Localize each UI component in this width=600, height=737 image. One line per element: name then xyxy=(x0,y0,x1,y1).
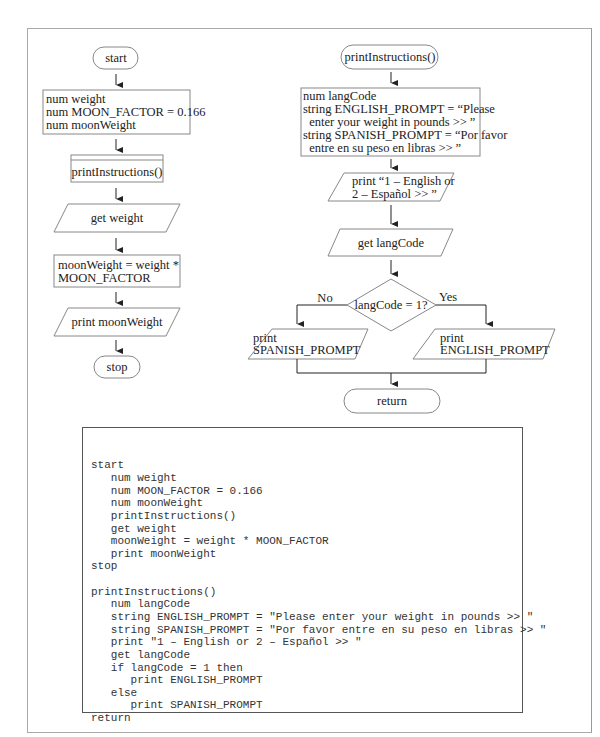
code-line: stop xyxy=(91,560,514,573)
return-label: return xyxy=(377,394,408,408)
code-line: num langCode xyxy=(91,598,514,611)
code-line: moonWeight = weight * MOON_FACTOR xyxy=(91,535,514,548)
code-line: get langCode xyxy=(91,649,514,662)
yes-label: Yes xyxy=(439,290,457,304)
decl-line-2: num MOON_FACTOR = 0.166 xyxy=(46,105,205,119)
code-line: printInstructions() xyxy=(91,510,514,523)
sub-start-label: printInstructions() xyxy=(345,50,436,64)
code-line: if langCode = 1 then xyxy=(91,662,514,675)
code-line: num moonWeight xyxy=(91,497,514,510)
code-line: print "1 – English or 2 – Español >> " xyxy=(91,636,514,649)
calc-line-1: moonWeight = weight * xyxy=(58,258,179,272)
pseudocode-box: start num weight num MOON_FACTOR = 0.166… xyxy=(82,427,523,713)
sub-decl-3: enter your weight in pounds >> ” xyxy=(303,115,475,129)
input-label: get weight xyxy=(91,211,144,225)
code-line: return xyxy=(91,712,514,725)
code-line: num MOON_FACTOR = 0.166 xyxy=(91,485,514,498)
code-line: start xyxy=(91,459,514,472)
decision-label: langCode = 1? xyxy=(354,298,427,312)
input-langcode-label: get langCode xyxy=(358,236,425,250)
stop-label: stop xyxy=(107,360,128,374)
code-line: else xyxy=(91,687,514,700)
decl-line-1: num weight xyxy=(46,92,106,106)
sub-decl-2: string ENGLISH_PROMPT = “Please xyxy=(303,102,495,116)
sub-decl-1: num langCode xyxy=(303,89,377,103)
menu-line-1: print “1 – English or xyxy=(352,174,456,188)
call-label: printInstructions() xyxy=(72,165,163,179)
menu-line-2: 2 – Español >> ” xyxy=(352,187,437,201)
output-label: print moonWeight xyxy=(72,315,164,329)
code-line: num weight xyxy=(91,472,514,485)
start-label: start xyxy=(105,51,127,65)
code-line: string SPANISH_PROMPT = "Por favor entre… xyxy=(91,624,514,637)
code-line: print moonWeight xyxy=(91,548,514,561)
code-line xyxy=(91,573,514,586)
code-line: printInstructions() xyxy=(91,586,514,599)
sub-decl-4: string SPANISH_PROMPT = “Por favor xyxy=(303,128,508,142)
code-line: print ENGLISH_PROMPT xyxy=(91,674,514,687)
code-line: get weight xyxy=(91,523,514,536)
sub-decl-5: entre en su peso en libras >> ” xyxy=(303,141,461,155)
code-line: print SPANISH_PROMPT xyxy=(91,699,514,712)
code-line: string ENGLISH_PROMPT = "Please enter yo… xyxy=(91,611,514,624)
calc-line-2: MOON_FACTOR xyxy=(58,271,151,285)
no-branch-line-2: SPANISH_PROMPT xyxy=(253,343,361,357)
decl-line-3: num moonWeight xyxy=(46,118,136,132)
yes-branch-line-2: ENGLISH_PROMPT xyxy=(440,343,550,357)
no-label: No xyxy=(317,291,332,305)
